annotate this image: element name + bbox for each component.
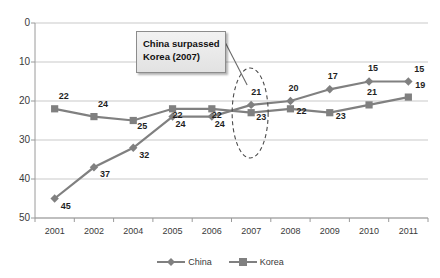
x-axis-tick-label: 2009: [310, 226, 350, 236]
legend-label-korea: Korea: [260, 257, 284, 267]
x-axis-ticks: [31, 23, 428, 222]
data-point-label: 45: [61, 201, 71, 211]
data-point-label: 20: [288, 83, 298, 93]
data-point-label: 23: [336, 111, 346, 121]
data-point-label: 21: [251, 87, 261, 97]
y-axis-tick-label: 0: [6, 17, 30, 28]
chart-legend: China Korea: [0, 256, 440, 268]
x-axis-tick-label: 2004: [113, 226, 153, 236]
x-axis-tick-label: 2011: [388, 226, 428, 236]
line-chart: 01020304050 2001200220042005200620072008…: [0, 0, 440, 278]
data-point-label: 15: [414, 64, 424, 74]
legend-item-china[interactable]: China: [156, 256, 212, 268]
data-point-label: 25: [137, 121, 147, 131]
legend-label-china: China: [188, 257, 212, 267]
china-surpassed-korea-callout: China surpassed Korea (2007): [136, 31, 226, 73]
data-point-label: 21: [367, 87, 377, 97]
legend-item-korea[interactable]: Korea: [228, 256, 284, 268]
data-point-label: 22: [212, 110, 222, 120]
x-axis-tick-label: 2006: [192, 226, 232, 236]
data-point-label: 17: [328, 71, 338, 81]
data-point-label: 24: [215, 119, 225, 129]
x-axis-tick-label: 2010: [349, 226, 389, 236]
data-point-label: 32: [139, 150, 149, 160]
data-point-label: 22: [173, 110, 183, 120]
data-point-label: 15: [368, 63, 378, 73]
y-axis-tick-label: 40: [6, 173, 30, 184]
y-axis-tick-label: 50: [6, 212, 30, 223]
data-point-label: 24: [176, 119, 186, 129]
data-point-label: 37: [100, 169, 110, 179]
data-point-label: 22: [296, 106, 306, 116]
data-point-label: 22: [59, 91, 69, 101]
gridlines: [35, 23, 428, 218]
legend-marker-square-icon: [228, 256, 258, 268]
y-axis-tick-label: 20: [6, 95, 30, 106]
callout-leader-line: [225, 42, 247, 85]
legend-marker-diamond-icon: [156, 256, 186, 268]
data-point-label: 19: [415, 80, 425, 90]
x-axis-tick-label: 2007: [231, 226, 271, 236]
data-point-label: 23: [256, 112, 266, 122]
y-axis-tick-label: 30: [6, 134, 30, 145]
x-axis-tick-label: 2001: [35, 226, 75, 236]
x-axis-tick-label: 2005: [153, 226, 193, 236]
x-axis-tick-label: 2008: [270, 226, 310, 236]
x-axis-tick-label: 2002: [74, 226, 114, 236]
callout-line-2: Korea (2007): [143, 50, 221, 63]
y-axis-tick-label: 10: [6, 56, 30, 67]
callout-line-1: China surpassed: [143, 37, 221, 50]
axes: [35, 23, 428, 218]
data-point-label: 24: [98, 99, 108, 109]
